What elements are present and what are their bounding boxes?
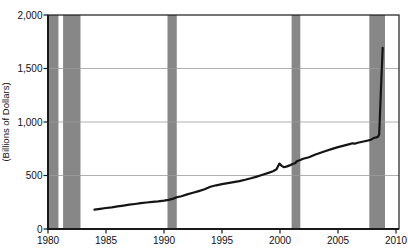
x-tick-label: 2010 <box>385 235 408 246</box>
y-tick-label: 1,000 <box>17 117 42 128</box>
y-tick-label: 2,000 <box>17 10 42 21</box>
plot-frame <box>47 15 399 230</box>
gridlines <box>48 69 399 176</box>
y-axis-title: (Billions of Dollars) <box>0 82 11 161</box>
y-tick-label: 500 <box>26 170 43 181</box>
chart-figure: 198019851990199520002005201005001,0001,5… <box>0 0 408 248</box>
x-tick-label: 2005 <box>327 235 350 246</box>
y-tick-label: 1,500 <box>17 63 42 74</box>
x-tick-label: 1980 <box>37 235 60 246</box>
x-tick-label: 1985 <box>95 235 118 246</box>
axis-ticks <box>44 15 397 234</box>
x-tick-label: 1990 <box>153 235 176 246</box>
data-series <box>94 48 382 210</box>
x-tick-label: 2000 <box>269 235 292 246</box>
line-chart: 198019851990199520002005201005001,0001,5… <box>0 0 408 248</box>
data-line <box>94 48 382 210</box>
x-tick-label: 1995 <box>211 235 234 246</box>
y-tick-label: 0 <box>37 224 43 235</box>
